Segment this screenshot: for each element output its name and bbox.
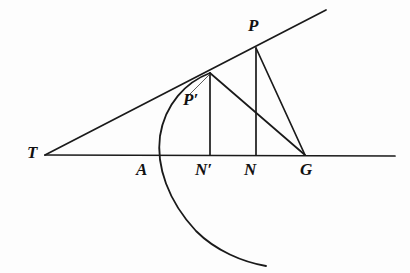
point-label-N-prime: N′ (195, 161, 212, 178)
point-label-P-prime: P′ (183, 91, 198, 108)
segment-line-P-G (256, 48, 305, 155)
figure-canvas (0, 0, 410, 273)
axis-baseline-line (45, 155, 395, 156)
segment-line-Pprime-G (210, 73, 305, 155)
point-label-G: G (300, 161, 312, 178)
point-label-N: N (244, 161, 256, 178)
point-label-A: A (136, 161, 147, 178)
point-label-T: T (27, 144, 37, 161)
geometry-figure: T A P P′ N′ N G (0, 0, 410, 273)
point-label-P: P (248, 17, 258, 34)
tangent-line-T-through-P (45, 10, 326, 155)
